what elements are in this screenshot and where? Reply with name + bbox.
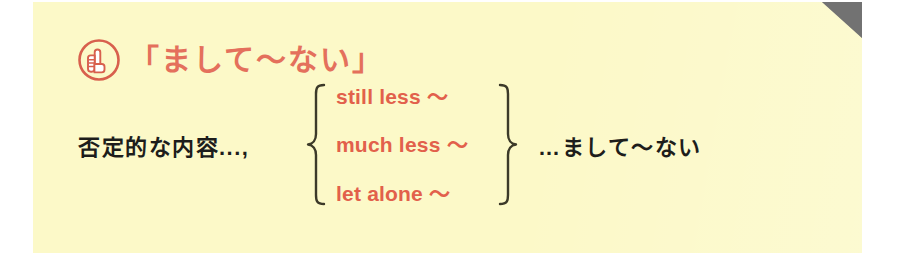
list-item: still less ～	[336, 86, 494, 107]
option-list: still less ～ much less ～ let alone ～	[326, 86, 498, 204]
heading-row: 「まして～ない」	[77, 38, 384, 82]
pointing-hand-icon	[77, 38, 121, 82]
right-brace-icon	[498, 82, 518, 207]
list-item: much less ～	[336, 134, 494, 155]
note-card-root: 「まして～ない」 否定的な内容..., still less ～ much le…	[0, 0, 900, 262]
folded-corner-icon	[822, 2, 862, 38]
heading-title: 「まして～ない」	[129, 45, 384, 75]
formula-row: 否定的な内容..., still less ～ much less ～ let …	[0, 82, 862, 207]
left-brace-icon	[306, 82, 326, 207]
list-item: let alone ～	[336, 183, 494, 204]
lead-phrase: 否定的な内容...,	[78, 129, 249, 161]
brace-group: still less ～ much less ～ let alone ～	[306, 82, 518, 207]
result-phrase: …まして～ない	[538, 129, 702, 161]
